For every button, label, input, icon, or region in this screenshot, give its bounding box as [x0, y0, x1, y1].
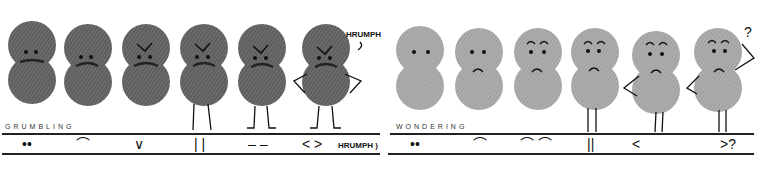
grumbling-panel: HRUMPH GRUMBLING •• ⌒ ∨ | | – – < > HRUM…	[0, 0, 390, 172]
wondering-bottom-rule	[388, 153, 754, 155]
eye-icon	[34, 50, 38, 54]
leg-icon	[193, 104, 194, 130]
wondering-thought-question: ?	[744, 24, 752, 40]
grumbling-figure-2	[64, 24, 112, 106]
grumbling-figure-3	[122, 24, 170, 106]
grumbling-label: GRUMBLING	[5, 123, 74, 130]
grumbling-figure-5	[238, 24, 286, 128]
wondering-key-1: ••	[410, 137, 420, 151]
eye-icon	[24, 50, 28, 54]
grumbling-key-2: ⌒	[76, 137, 90, 151]
wondering-figure-6	[687, 28, 754, 132]
wondering-figure-4	[571, 28, 619, 132]
grumbling-key-note: HRUMPH )	[338, 141, 378, 150]
wondering-key-4: ||	[587, 137, 594, 151]
grumbling-figure-6	[294, 24, 362, 128]
wondering-panel: ? WONDERING •• ⌒ ⌒ ⌒ || < >?	[380, 0, 762, 172]
leg-icon	[208, 104, 211, 130]
grumbling-speech: HRUMPH	[346, 30, 381, 39]
grumbling-key-6: < >	[302, 137, 322, 151]
wondering-key-3: ⌒ ⌒	[520, 137, 552, 151]
grumbling-key-4: | |	[194, 137, 205, 151]
grumbling-key-5: – –	[248, 137, 267, 151]
grumbling-key-1: ••	[22, 137, 32, 151]
grumbling-key-3: ∨	[134, 137, 144, 151]
wondering-key-6: >?	[720, 137, 736, 151]
wondering-figure-3	[514, 28, 562, 110]
grumbling-figure-4	[180, 24, 228, 130]
wondering-figure-5	[624, 31, 680, 132]
wondering-figure-1	[396, 26, 444, 110]
wondering-key-5: <	[632, 137, 640, 151]
wondering-top-rule	[390, 133, 754, 135]
speech-tail-icon	[358, 42, 362, 50]
wondering-key-2: ⌒	[473, 137, 487, 151]
grumbling-bottom-rule	[2, 153, 380, 155]
wondering-label: WONDERING	[396, 123, 467, 130]
wondering-figures	[380, 0, 762, 172]
grumbling-top-rule	[2, 133, 380, 135]
wondering-figure-2	[455, 28, 503, 110]
grumbling-figure-1	[8, 21, 56, 104]
